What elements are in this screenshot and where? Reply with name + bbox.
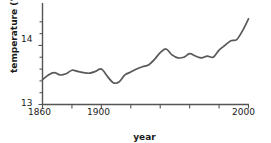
- axis-lines: [42, 3, 249, 105]
- x-tick-label-1860: 1860: [28, 107, 51, 117]
- y-axis-title: temperature (°C): [2, 0, 16, 73]
- temperature-line-chart: temperature (°C) year 14 13 1860 1900 20…: [0, 0, 271, 143]
- x-tick-label-2000: 2000: [232, 107, 255, 117]
- temperature-series-line: [43, 19, 249, 83]
- x-axis-title-label: year: [133, 132, 155, 142]
- plot-area: [0, 0, 271, 143]
- y-axis-title-label: temperature (°C): [9, 0, 19, 73]
- x-axis-title: year: [0, 125, 271, 143]
- x-tick-label-1900: 1900: [87, 107, 110, 117]
- y-tick-label-14: 14: [21, 34, 32, 44]
